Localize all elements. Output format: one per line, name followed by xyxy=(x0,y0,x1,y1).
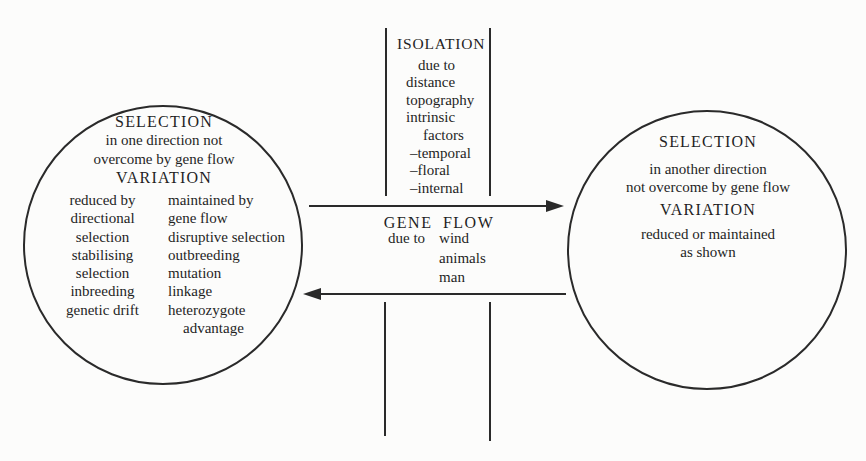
gene-flow-cause: animals xyxy=(439,249,486,269)
isolation-line: intrinsic xyxy=(406,109,497,127)
maintained-column-line: outbreeding xyxy=(168,246,308,264)
isolation-barrier-bottom-right-line xyxy=(489,302,491,441)
gene-flow-due-to-label: due to xyxy=(388,229,425,288)
right-variation-desc-1: reduced or maintained xyxy=(572,225,844,243)
isolation-line: factors xyxy=(423,127,497,145)
isolation-block: ISOLATION due to distance topography int… xyxy=(397,35,497,197)
left-selection-desc-1: in one direction not xyxy=(38,131,290,150)
isolation-line: –temporal xyxy=(410,145,497,163)
right-selection-desc-2: not overcome by gene flow xyxy=(572,178,844,197)
isolation-line: due to xyxy=(418,57,497,75)
gene-flow-arrow-right-head-icon xyxy=(546,200,564,212)
reduced-column-line: selection xyxy=(45,264,160,282)
isolation-line: –internal xyxy=(410,180,497,198)
gene-flow-isolation-diagram: SELECTION in one direction not overcome … xyxy=(0,0,866,461)
maintained-column-line: linkage xyxy=(168,282,308,300)
reduced-column-line: selection xyxy=(45,228,160,246)
maintained-column-line: mutation xyxy=(168,264,308,282)
maintained-column-line: disruptive selection xyxy=(168,228,308,246)
reduced-column-line: reduced by xyxy=(45,191,160,209)
reduced-column-line: stabilising xyxy=(45,246,160,264)
isolation-line: distance xyxy=(406,74,497,92)
gene-flow-cause-list: wind animals man xyxy=(439,229,486,288)
gene-flow-cause: man xyxy=(439,268,486,288)
right-selection-desc-1: in another direction xyxy=(572,160,844,178)
gene-flow-causes: due to wind animals man xyxy=(388,229,486,288)
reduced-column-line: genetic drift xyxy=(45,301,160,319)
right-variation-title: VARIATION xyxy=(572,201,844,219)
gene-flow-arrow-right-line xyxy=(309,205,548,207)
reduced-column-line: directional xyxy=(45,209,160,227)
gene-flow-cause: wind xyxy=(439,229,486,249)
maintained-column-line: gene flow xyxy=(168,209,308,227)
isolation-line: topography xyxy=(406,92,497,110)
right-selection-title: SELECTION xyxy=(572,133,844,150)
maintained-column-line: heterozygote xyxy=(168,301,308,319)
isolation-title: ISOLATION xyxy=(397,35,497,53)
maintained-column-line: advantage xyxy=(168,319,308,337)
left-circle-header: SELECTION in one direction not overcome … xyxy=(38,113,290,187)
right-circle-text: SELECTION in another direction not overc… xyxy=(572,133,844,261)
left-variation-columns: reduced by directional selection stabili… xyxy=(45,191,308,337)
left-selection-desc-2: overcome by gene flow xyxy=(38,150,290,169)
reduced-column-line: inbreeding xyxy=(45,282,160,300)
isolation-barrier-bottom-left-line xyxy=(384,302,386,436)
gene-flow-arrow-left-line xyxy=(321,293,566,295)
variation-maintained-column: maintained by gene flow disruptive selec… xyxy=(168,191,308,337)
right-variation-desc-2: as shown xyxy=(572,243,844,261)
left-variation-title: VARIATION xyxy=(38,169,290,187)
left-selection-title: SELECTION xyxy=(38,113,290,131)
isolation-barrier-top-left-line xyxy=(385,28,387,196)
variation-reduced-column: reduced by directional selection stabili… xyxy=(45,191,160,337)
maintained-column-line: maintained by xyxy=(168,191,308,209)
isolation-line: –floral xyxy=(410,162,497,180)
